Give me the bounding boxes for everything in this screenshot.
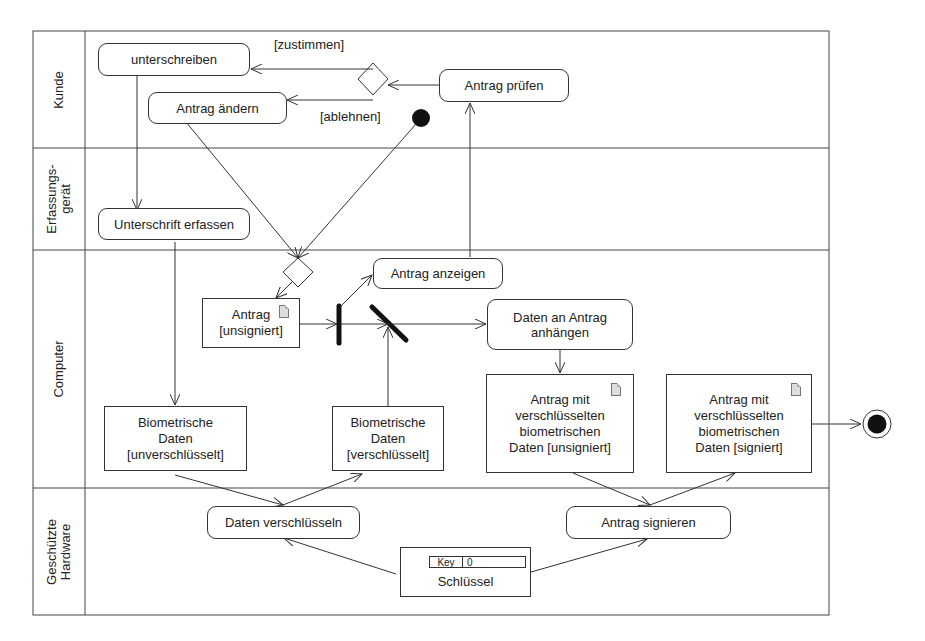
lane-erfassungsgeraet-label: Erfassungs-gerät bbox=[45, 164, 73, 233]
object-biometrische-daten-unverschluesselt[interactable]: Biometrische Daten [unverschlüsselt] bbox=[104, 406, 247, 471]
lane-erfassungsgeraet: Erfassungs-gerät bbox=[33, 148, 85, 250]
object-biometrische-daten-verschluesselt[interactable]: Biometrische Daten [verschlüsselt] bbox=[332, 406, 444, 471]
key-value: 0 bbox=[463, 557, 525, 567]
action-unterschreiben[interactable]: unterschreiben bbox=[98, 43, 250, 76]
lane-geschuetzte-hardware-label: GeschützteHardware bbox=[45, 519, 73, 585]
action-antrag-pruefen[interactable]: Antrag prüfen bbox=[439, 69, 569, 102]
lane-computer: Computer bbox=[33, 250, 85, 488]
action-daten-verschluesseln[interactable]: Daten verschlüsseln bbox=[207, 506, 360, 539]
guard-zustimmen: [zustimmen] bbox=[274, 37, 344, 52]
key-label: Key bbox=[430, 557, 463, 567]
document-icon bbox=[279, 305, 289, 318]
lane-kunde: Kunde bbox=[33, 31, 85, 148]
schluessel-key-table: Key 0 bbox=[429, 556, 526, 568]
guard-ablehnen: [ablehnen] bbox=[320, 109, 381, 124]
lane-kunde-label: Kunde bbox=[52, 71, 66, 109]
lane-label-line2: gerät bbox=[59, 164, 73, 233]
action-unterschrift-erfassen[interactable]: Unterschrift erfassen bbox=[98, 208, 250, 240]
lane-computer-label: Computer bbox=[52, 340, 66, 397]
document-icon bbox=[611, 383, 621, 396]
initial-node bbox=[412, 109, 430, 127]
lane-geschuetzte-hardware: GeschützteHardware bbox=[33, 488, 85, 615]
lane-label-line2: Hardware bbox=[59, 519, 73, 585]
final-node bbox=[868, 415, 887, 434]
action-daten-anhaengen[interactable]: Daten an Antrag anhängen bbox=[487, 299, 633, 350]
action-antrag-signieren[interactable]: Antrag signieren bbox=[566, 506, 731, 539]
action-antrag-aendern[interactable]: Antrag ändern bbox=[148, 92, 287, 124]
object-schluessel[interactable]: Schlüssel bbox=[400, 547, 531, 597]
action-antrag-anzeigen[interactable]: Antrag anzeigen bbox=[373, 258, 503, 289]
document-icon bbox=[791, 383, 801, 396]
